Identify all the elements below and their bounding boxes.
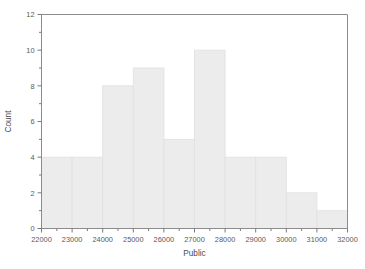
y-axis-tick-label: 8 <box>30 82 34 91</box>
histogram-bar[interactable] <box>317 211 348 229</box>
bars-group <box>42 50 348 228</box>
x-axis-tick-label: 29000 <box>245 235 266 244</box>
histogram-bar[interactable] <box>103 86 134 229</box>
y-axis-tick-label: 4 <box>30 153 34 162</box>
y-axis-tick-label: 12 <box>26 10 34 19</box>
histogram-bar[interactable] <box>133 68 164 229</box>
x-axis-tick-label: 26000 <box>154 235 175 244</box>
histogram-figure: 0246810122200023000240002500026000270002… <box>0 0 365 269</box>
x-axis-tick-label: 32000 <box>337 235 358 244</box>
x-axis-tick-label: 27000 <box>184 235 205 244</box>
x-axis-tick-label: 23000 <box>62 235 83 244</box>
histogram-bar[interactable] <box>164 139 195 228</box>
x-axis-tick-label: 24000 <box>92 235 113 244</box>
histogram-bar[interactable] <box>72 157 103 228</box>
x-axis-tick-label: 25000 <box>123 235 144 244</box>
y-axis-tick-label: 10 <box>26 46 34 55</box>
y-axis-tick-label: 2 <box>30 189 34 198</box>
x-axis-tick-label: 22000 <box>31 235 52 244</box>
plot-canvas: 0246810122200023000240002500026000270002… <box>0 0 365 269</box>
histogram-bar[interactable] <box>225 157 256 228</box>
x-axis-tick-label: 31000 <box>307 235 328 244</box>
histogram-bar[interactable] <box>256 157 287 228</box>
x-axis-title: Public <box>183 249 205 258</box>
x-axis-tick-label: 30000 <box>276 235 297 244</box>
y-axis-tick-label: 0 <box>30 224 34 233</box>
y-axis-title: Count <box>4 110 13 133</box>
histogram-bar[interactable] <box>195 50 226 228</box>
y-axis-tick-label: 6 <box>30 117 34 126</box>
x-axis-tick-label: 28000 <box>215 235 236 244</box>
histogram-bar[interactable] <box>286 193 317 229</box>
histogram-bar[interactable] <box>42 157 73 228</box>
